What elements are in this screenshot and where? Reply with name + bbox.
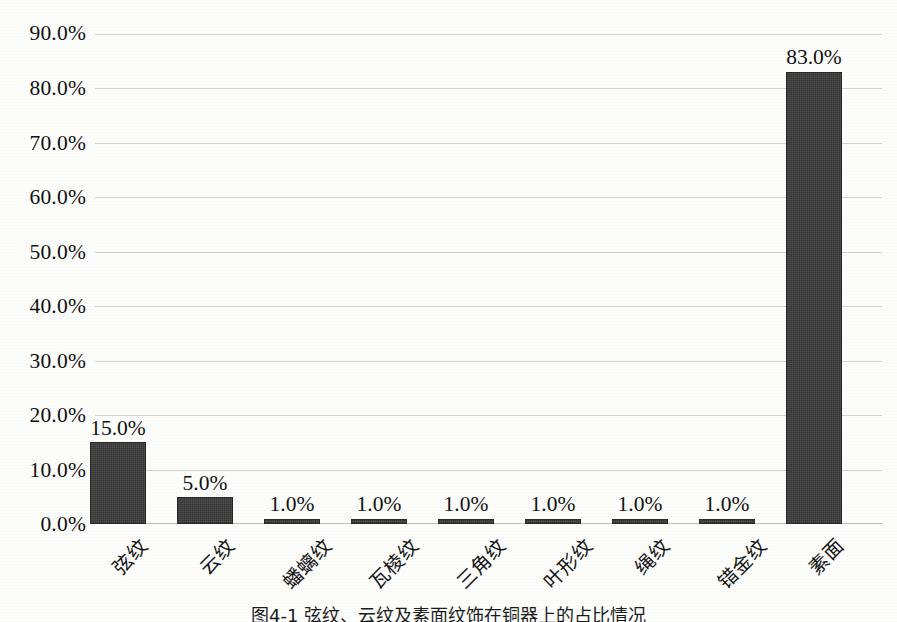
y-tick-label-60: 60.0%	[29, 187, 86, 209]
x-axis-label-7: 错金纹	[715, 536, 772, 593]
y-tick-label-40: 40.0%	[29, 296, 86, 318]
bar-value-label-6: 1.0%	[618, 494, 663, 516]
bar-slot: 1.0%	[351, 34, 407, 524]
bar-0[interactable]	[90, 442, 146, 524]
x-axis-label-6: 绳纹	[632, 536, 675, 579]
y-tick-label-50: 50.0%	[29, 242, 86, 264]
y-tick-label-0: 0.0%	[40, 514, 86, 536]
y-tick-label-80: 80.0%	[29, 78, 86, 100]
figure-caption: 图4-1 弦纹、云纹及素面纹饰在铜器上的占比情况	[0, 605, 897, 622]
y-axis: 90.0% 80.0% 70.0% 60.0% 50.0% 40.0% 30.0…	[0, 0, 86, 622]
bar-value-label-7: 1.0%	[705, 494, 750, 516]
bar-1[interactable]	[177, 497, 233, 524]
bar-value-label-1: 5.0%	[183, 473, 228, 495]
x-axis-label-3: 瓦棱纹	[367, 536, 424, 593]
y-tick-label-90: 90.0%	[29, 23, 86, 45]
chart-page: 90.0% 80.0% 70.0% 60.0% 50.0% 40.0% 30.0…	[0, 0, 897, 622]
y-tick-label-20: 20.0%	[29, 405, 86, 427]
bar-value-label-0: 15.0%	[90, 418, 146, 440]
bar-8[interactable]	[786, 72, 842, 524]
bar-slot: 1.0%	[525, 34, 581, 524]
x-axis-label-5: 叶形纹	[541, 536, 598, 593]
bar-slot: 83.0%	[786, 34, 842, 524]
bar-slot: 1.0%	[699, 34, 755, 524]
x-axis-label-4: 三角纹	[454, 536, 511, 593]
bar-slot: 1.0%	[438, 34, 494, 524]
bar-value-label-5: 1.0%	[531, 494, 576, 516]
y-tick-label-30: 30.0%	[29, 351, 86, 373]
y-tick-label-70: 70.0%	[29, 133, 86, 155]
y-tick-label-10: 10.0%	[29, 460, 86, 482]
x-axis-label-8: 素面	[806, 536, 849, 579]
bar-slot: 1.0%	[264, 34, 320, 524]
x-axis-label-1: 云纹	[197, 536, 240, 579]
plot-area: 15.0% 5.0% 1.0% 1.0% 1.0% 1.0% 1	[95, 34, 882, 524]
bar-value-label-8: 83.0%	[786, 47, 842, 69]
x-axis-label-0: 弦纹	[110, 536, 153, 579]
bar-value-label-4: 1.0%	[444, 494, 489, 516]
x-axis-label-2: 蟠螭纹	[280, 536, 337, 593]
bar-slot: 5.0%	[177, 34, 233, 524]
bar-value-label-3: 1.0%	[357, 494, 402, 516]
bar-slot: 1.0%	[612, 34, 668, 524]
bar-value-label-2: 1.0%	[270, 494, 315, 516]
bar-slot: 15.0%	[90, 34, 146, 524]
